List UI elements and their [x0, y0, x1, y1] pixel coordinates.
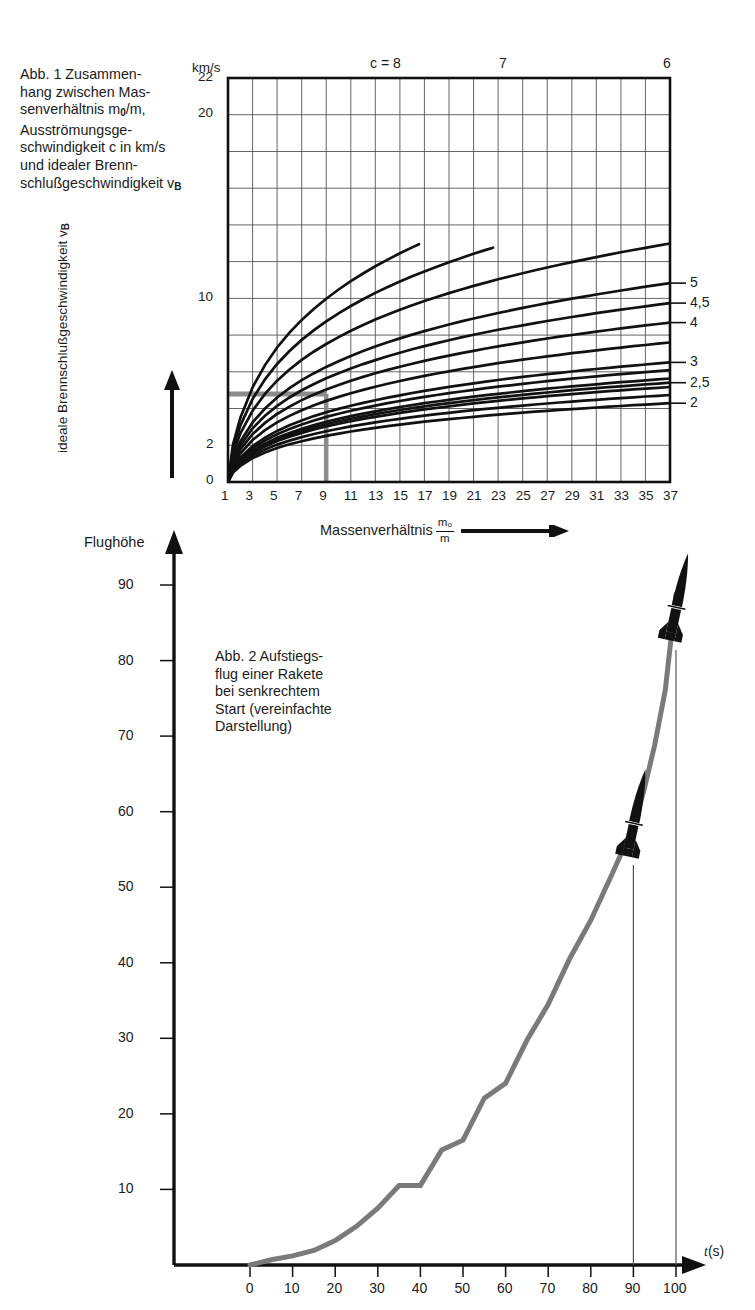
figure2-y-ticks	[160, 585, 174, 1189]
figure1-plot	[0, 0, 755, 510]
figure1-y-tick-20: 20	[198, 105, 213, 120]
figure2-y-tick-30: 30	[118, 1029, 134, 1045]
figure2-y-tick-70: 70	[118, 727, 134, 743]
figure2-rocket-marker-90	[615, 767, 657, 859]
figure1-x-tick-35: 35	[638, 488, 653, 503]
figure2-x-axis-unit: (s)	[708, 1243, 724, 1259]
figure1-y-tick-22: 22	[198, 69, 213, 84]
figure2-y-tick-90: 90	[118, 576, 134, 592]
figure1-x-tick-23: 23	[491, 488, 506, 503]
figure2-y-tick-50: 50	[118, 878, 134, 894]
figure2-x-tick-0: 0	[246, 1280, 254, 1296]
figure2-y-tick-20: 20	[118, 1105, 134, 1121]
figure1-right-leader-lines	[670, 283, 686, 403]
figure1-top-label-c8: c = 8	[370, 55, 401, 71]
figure1-x-tick-15: 15	[393, 488, 408, 503]
figure1-x-tick-5: 5	[270, 488, 278, 503]
figure1-right-label-3: 3	[690, 353, 698, 369]
figure1-x-tick-7: 7	[295, 488, 303, 503]
figure2-x-ticks	[250, 1265, 676, 1277]
figure2-x-tick-30: 30	[369, 1280, 385, 1296]
figure1-right-label-4: 4	[690, 314, 698, 330]
figure2-y-tick-40: 40	[118, 954, 134, 970]
figure2-x-tick-80: 80	[582, 1280, 598, 1296]
figure2-x-tick-90: 90	[625, 1280, 641, 1296]
figure1-y-tick-2: 2	[206, 436, 214, 451]
figure2-x-tick-70: 70	[540, 1280, 556, 1296]
figure1-x-tick-21: 21	[467, 488, 482, 503]
figure1-right-label-5: 5	[690, 274, 698, 290]
figure1-x-tick-29: 29	[565, 488, 580, 503]
figure2-x-tick-60: 60	[497, 1280, 513, 1296]
figure2-y-tick-80: 80	[118, 652, 134, 668]
figure2-rocket-marker-100	[658, 551, 700, 643]
figure2-plot	[0, 520, 755, 1310]
figure1-right-label-2: 2	[690, 394, 698, 410]
figure1-x-tick-17: 17	[417, 488, 432, 503]
figure1-x-tick-11: 11	[344, 488, 358, 503]
figure1-right-label-25: 2,5	[690, 374, 709, 390]
figure1-x-tick-37: 37	[663, 488, 678, 503]
figure2-trajectory-curve	[250, 670, 633, 1265]
figure2-x-tick-20: 20	[327, 1280, 343, 1296]
figure1-x-tick-33: 33	[614, 488, 629, 503]
figure2-x-tick-100: 100	[663, 1280, 686, 1296]
figure1-x-tick-13: 13	[368, 488, 383, 503]
figure2-y-axis	[165, 530, 183, 1265]
figure2-y-tick-60: 60	[118, 803, 134, 819]
figure2-trajectory-path	[250, 594, 676, 1265]
figure1-x-tick-25: 25	[516, 488, 531, 503]
figure1-x-tick-1: 1	[221, 488, 229, 503]
figure1-top-label-6: 6	[663, 55, 671, 71]
figure1-x-tick-31: 31	[589, 488, 604, 503]
figure1-y-tick-0: 0	[206, 472, 214, 487]
figure1-y-tick-10: 10	[198, 289, 213, 304]
figure1-x-tick-9: 9	[319, 488, 327, 503]
figure2-x-tick-40: 40	[412, 1280, 428, 1296]
figure1-x-tick-19: 19	[442, 488, 457, 503]
figure1-top-label-7: 7	[499, 55, 507, 71]
figure1-x-tick-3: 3	[246, 488, 254, 503]
figure2-y-tick-10: 10	[118, 1180, 134, 1196]
figure1-right-label-45: 4,5	[690, 294, 709, 310]
figure2-x-tick-50: 50	[454, 1280, 470, 1296]
figure2-x-tick-10: 10	[284, 1280, 300, 1296]
figure1-x-tick-27: 27	[540, 488, 555, 503]
figure2-x-axis-label: t(s)	[704, 1243, 724, 1260]
